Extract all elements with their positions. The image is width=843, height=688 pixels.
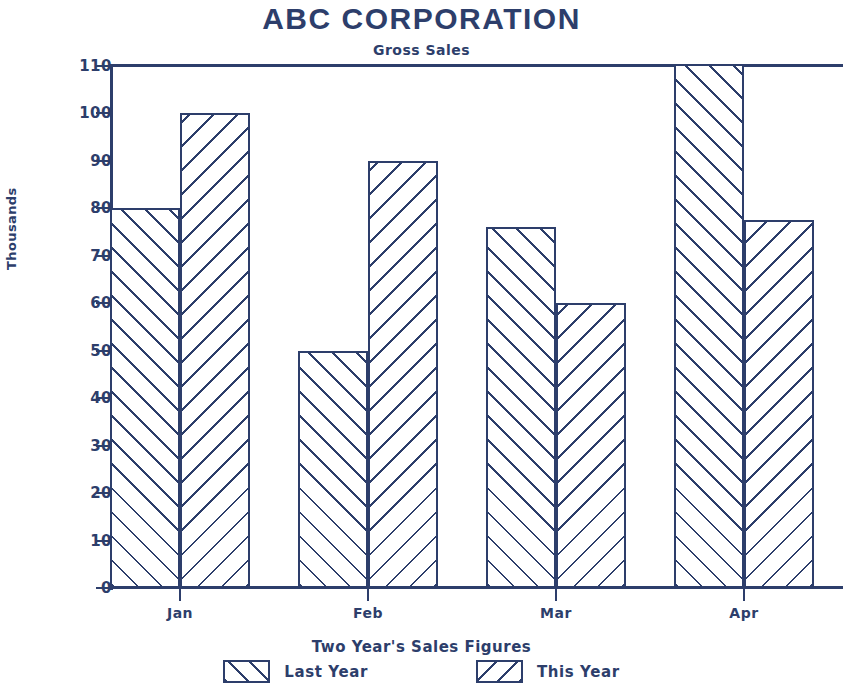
y-axis-tick-label: 100 bbox=[26, 104, 112, 122]
y-axis-tick-label: 10 bbox=[26, 532, 112, 550]
x-axis-tick-label-feb: Feb bbox=[353, 605, 383, 621]
y-axis-tick-label: 60 bbox=[26, 294, 112, 312]
x-axis-title: Two Year's Sales Figures bbox=[0, 638, 843, 656]
y-axis-tick-label: 20 bbox=[26, 484, 112, 502]
x-axis-tick bbox=[367, 588, 369, 601]
x-axis-tick-label-mar: Mar bbox=[540, 605, 572, 621]
legend-label-last-year: Last Year bbox=[284, 663, 368, 681]
y-axis-tick-label: 110 bbox=[26, 57, 112, 75]
y-axis-tick-label: 0 bbox=[26, 579, 112, 597]
chart-subtitle: Gross Sales bbox=[0, 42, 843, 58]
x-axis-tick-label-jan: Jan bbox=[167, 605, 193, 621]
legend-swatch-last-year-icon bbox=[223, 660, 270, 683]
x-axis-tick bbox=[743, 588, 745, 601]
x-axis-tick bbox=[555, 588, 557, 601]
chart-title: ABC CORPORATION bbox=[0, 2, 843, 36]
bar-jan-this-year bbox=[180, 113, 250, 588]
bar-jan-last-year bbox=[112, 208, 180, 588]
y-axis-tick-label: 40 bbox=[26, 389, 112, 407]
legend-label-this-year: This Year bbox=[537, 663, 620, 681]
x-axis-tick-label-apr: Apr bbox=[729, 605, 758, 621]
bar-mar-last-year bbox=[486, 227, 556, 588]
plot-area bbox=[112, 66, 843, 588]
y-axis-tick-label: 50 bbox=[26, 342, 112, 360]
y-axis-tick-label: 90 bbox=[26, 152, 112, 170]
legend-item-this-year: This Year bbox=[476, 660, 620, 683]
y-axis-tick-label: 70 bbox=[26, 247, 112, 265]
y-axis-title: Thousands bbox=[4, 110, 19, 270]
y-axis-tick-label: 30 bbox=[26, 437, 112, 455]
legend-item-last-year: Last Year bbox=[223, 660, 368, 683]
bar-feb-this-year bbox=[368, 161, 438, 588]
bar-apr-last-year bbox=[674, 66, 744, 588]
bar-chart: ABC CORPORATION Gross Sales Thousands 01… bbox=[0, 0, 843, 688]
legend-swatch-this-year-icon bbox=[476, 660, 523, 683]
y-axis-tick-label: 80 bbox=[26, 199, 112, 217]
x-axis-tick bbox=[179, 588, 181, 601]
bar-apr-this-year bbox=[744, 220, 814, 588]
bar-mar-this-year bbox=[556, 303, 626, 588]
bar-feb-last-year bbox=[298, 351, 368, 588]
chart-legend: Last Year This Year bbox=[0, 660, 843, 683]
